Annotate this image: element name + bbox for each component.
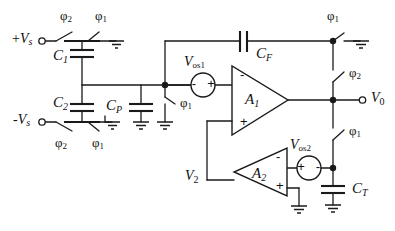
label-vs-minus: -Vs <box>13 112 30 128</box>
switch-phi1-c1-ground[interactable] <box>88 32 116 41</box>
label-vs-plus: +Vs <box>12 31 32 47</box>
label-vos2: Vos2 <box>290 137 311 153</box>
a1-plus-sign: + <box>240 114 248 129</box>
svg-text:+Vs: +Vs <box>12 31 32 47</box>
label-v0: V0 <box>371 90 385 107</box>
vs-minus-terminal <box>39 119 45 125</box>
label-cp: CP <box>106 97 122 115</box>
switch-phi1-cf-reset[interactable] <box>333 33 360 41</box>
ground-ct <box>325 205 341 212</box>
vos1-plus-sign: + <box>207 76 215 91</box>
label-phi2-c2-bottom: φ2 <box>55 135 67 151</box>
switch-phi1-summing-node[interactable] <box>165 85 175 122</box>
label-vos1: Vos1 <box>184 54 205 70</box>
label-phi1-cf-reset: φ1 <box>327 8 339 24</box>
label-phi1-summing-node: φ1 <box>180 95 192 111</box>
a2-minus-sign: - <box>276 149 280 164</box>
label-cf: CF <box>256 45 273 63</box>
ground-cp <box>133 122 149 129</box>
switch-phi2-output[interactable] <box>333 72 344 100</box>
a1-minus-sign: - <box>240 67 244 82</box>
circuit-schematic: +Vs -Vs φ2 φ1 C1 C2 CP <box>0 0 395 231</box>
label-phi2-c1-top: φ2 <box>60 8 72 24</box>
ground-summing-switch <box>157 122 173 129</box>
vs-plus-terminal <box>39 38 45 44</box>
switch-phi1-ct-hold[interactable] <box>333 130 344 168</box>
switch-phi2-c2-bottom[interactable] <box>46 122 83 131</box>
ground-a2-plus <box>291 206 307 213</box>
label-ct: CT <box>352 180 369 198</box>
label-phi2-output: φ2 <box>349 65 361 81</box>
label-c2: C2 <box>53 94 68 112</box>
ground-c2-bottom <box>105 122 120 129</box>
label-c1: C1 <box>53 47 68 65</box>
label-v2: V2 <box>185 168 199 185</box>
ground-cf-reset <box>353 41 369 48</box>
switch-phi2-c1-top[interactable] <box>46 32 83 41</box>
label-phi1-ct-hold: φ1 <box>349 123 361 139</box>
vos2-minus-sign: - <box>316 159 320 174</box>
label-phi1-c1-ground: φ1 <box>95 8 107 24</box>
svg-text:-Vs: -Vs <box>13 112 30 128</box>
circuit-svg: +Vs -Vs φ2 φ1 C1 C2 CP <box>0 0 395 231</box>
v0-terminal <box>359 97 365 103</box>
vos2-plus-sign: + <box>297 159 305 174</box>
ground-c1-top <box>109 41 124 48</box>
switch-phi1-c2-ground[interactable] <box>88 122 112 131</box>
vos1-minus-sign: - <box>192 76 196 91</box>
label-phi1-c2-ground: φ1 <box>92 135 104 151</box>
a2-plus-sign: + <box>276 178 284 193</box>
